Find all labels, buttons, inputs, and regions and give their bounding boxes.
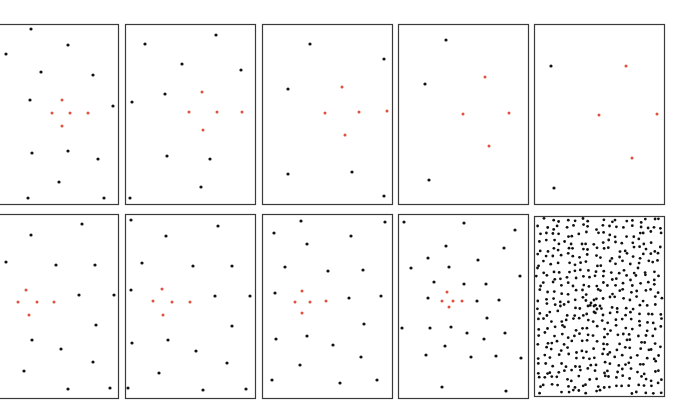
black-dot: [112, 293, 115, 296]
black-dot: [599, 256, 602, 259]
black-dot: [503, 331, 506, 334]
black-dot: [614, 241, 617, 244]
black-dot: [574, 269, 577, 272]
black-dot: [625, 274, 628, 277]
red-dot: [61, 125, 64, 128]
black-dot: [426, 296, 429, 299]
black-dot: [536, 225, 539, 228]
black-dot: [66, 387, 69, 390]
red-dot: [358, 111, 361, 114]
black-dot: [566, 276, 569, 279]
black-dot: [537, 357, 540, 360]
black-dot: [582, 223, 585, 226]
black-dot: [543, 354, 546, 357]
black-dot: [546, 314, 549, 317]
black-dot: [102, 196, 105, 199]
black-dot: [93, 263, 96, 266]
black-dot: [567, 235, 570, 238]
black-dot: [111, 104, 114, 107]
black-dot: [653, 358, 656, 361]
black-dot: [642, 232, 645, 235]
black-dot: [567, 281, 570, 284]
black-dot: [646, 321, 649, 324]
black-dot: [607, 239, 610, 242]
black-dot: [4, 260, 7, 263]
black-dot: [567, 219, 570, 222]
black-dot: [604, 375, 607, 378]
black-dot: [497, 298, 500, 301]
black-dot: [651, 261, 654, 264]
black-dot: [621, 318, 624, 321]
black-dot: [615, 376, 618, 379]
black-dot: [628, 333, 631, 336]
black-dot: [166, 338, 169, 341]
black-dot: [657, 291, 660, 294]
black-dot: [216, 224, 219, 227]
black-dot: [244, 387, 247, 390]
black-dot: [440, 385, 443, 388]
black-dot: [494, 354, 497, 357]
black-dot: [542, 384, 545, 387]
black-dot: [582, 217, 585, 220]
black-dot: [585, 350, 588, 353]
black-dot: [283, 265, 286, 268]
black-dot: [539, 250, 542, 253]
black-dot: [623, 269, 626, 272]
black-dot: [535, 275, 538, 278]
red-dot: [301, 290, 304, 293]
black-dot: [272, 231, 275, 234]
black-dot: [645, 378, 648, 381]
black-dot: [625, 235, 628, 238]
black-dot: [597, 385, 600, 388]
black-dot: [546, 274, 549, 277]
black-dot: [331, 343, 334, 346]
black-dot: [536, 307, 539, 310]
black-dot: [642, 253, 645, 256]
black-dot: [559, 305, 562, 308]
black-dot: [644, 392, 647, 395]
black-dot: [653, 250, 656, 253]
black-dot: [629, 299, 632, 302]
black-dot: [637, 238, 640, 241]
black-dot: [631, 392, 634, 395]
black-dot: [537, 318, 540, 321]
black-dot: [594, 369, 597, 372]
black-dot: [603, 336, 606, 339]
black-dot: [553, 335, 556, 338]
black-dot: [595, 228, 598, 231]
black-dot: [543, 217, 546, 220]
black-dot: [581, 243, 584, 246]
black-dot: [592, 320, 595, 323]
black-dot: [637, 384, 640, 387]
black-dot: [91, 360, 94, 363]
black-dot: [588, 285, 591, 288]
black-dot: [603, 218, 606, 221]
black-dot: [581, 350, 584, 353]
black-dot: [602, 224, 605, 227]
black-dot: [602, 297, 605, 300]
black-dot: [608, 225, 611, 228]
black-dot: [538, 376, 541, 379]
red-dot: [488, 145, 491, 148]
black-dot: [560, 254, 563, 257]
black-dot: [575, 357, 578, 360]
black-dot: [639, 304, 642, 307]
black-dot: [552, 297, 555, 300]
red-dot: [341, 86, 344, 89]
black-dot: [539, 232, 542, 235]
black-dot: [129, 218, 132, 221]
black-dot: [630, 367, 633, 370]
red-dot: [188, 111, 191, 114]
black-dot: [638, 245, 641, 248]
black-dot: [444, 38, 447, 41]
black-dot: [542, 317, 545, 320]
black-dot: [630, 318, 633, 321]
black-dot: [632, 255, 635, 258]
black-dot: [651, 313, 654, 316]
black-dot: [626, 252, 629, 255]
black-dot: [230, 324, 233, 327]
black-dot: [409, 266, 412, 269]
black-dot: [4, 52, 7, 55]
black-dot: [556, 310, 559, 313]
black-dot: [603, 247, 606, 250]
